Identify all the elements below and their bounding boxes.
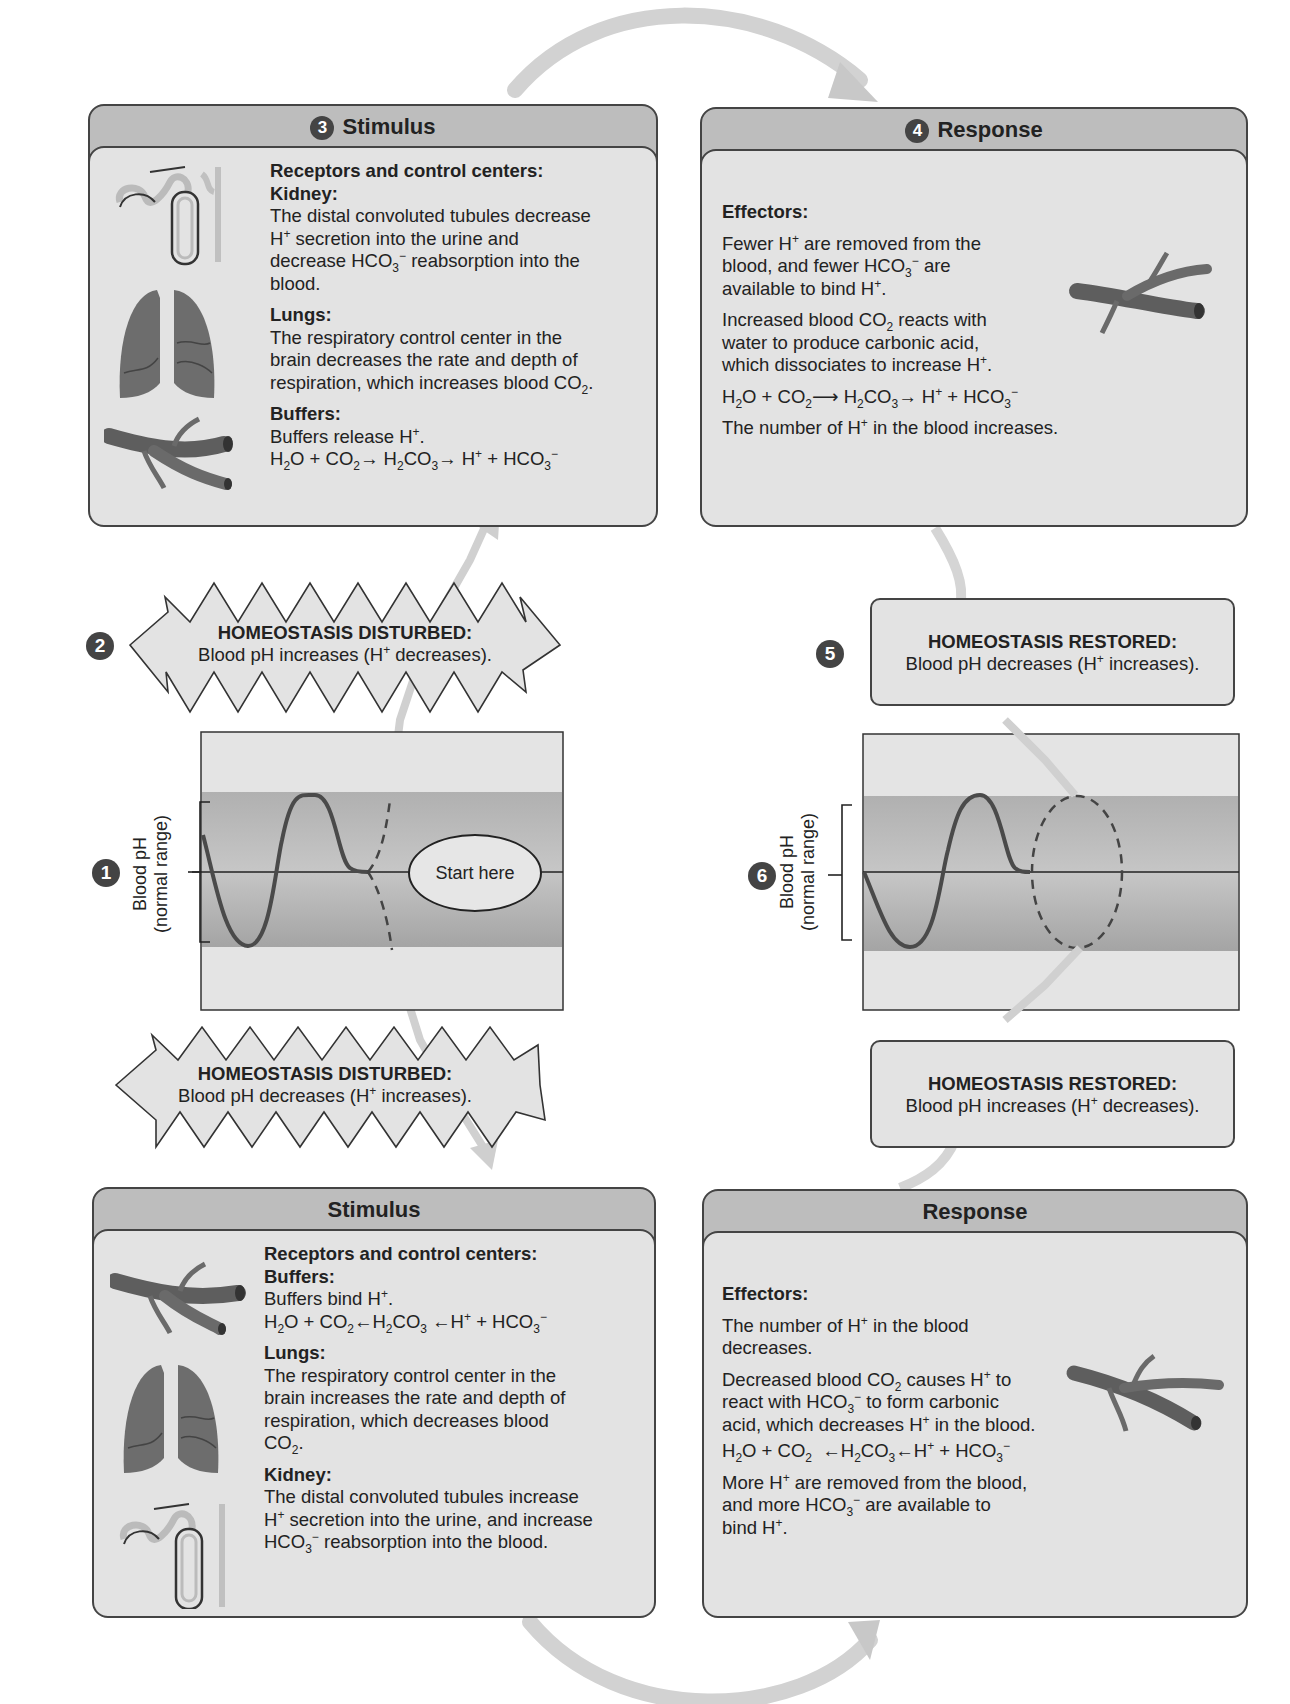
restored-increase-box: HOMEOSTASIS RESTORED: Blood pH increases… bbox=[870, 1040, 1235, 1148]
top-curved-arrow bbox=[515, 16, 878, 102]
start-here-oval: Start here bbox=[408, 834, 542, 912]
stimulus-top-text: Receptors and control centers: Kidney: T… bbox=[270, 160, 650, 480]
response-equation: H2O + CO2⟶ H2CO3→ H+ + HCO3− bbox=[722, 386, 1018, 407]
restored-decrease-box: HOMEOSTASIS RESTORED: Blood pH decreases… bbox=[870, 598, 1235, 706]
stimulus-panel-bottom: Stimulus Receptors and control centers: … bbox=[92, 1187, 656, 1618]
stimulus-bottom-text: Receptors and control centers: Buffers: … bbox=[264, 1243, 644, 1563]
response-panel-bottom-body: Effectors: The number of H+ in the blood… bbox=[702, 1231, 1248, 1618]
buffers-heading: Buffers: bbox=[270, 403, 650, 426]
step-3-badge: 3 bbox=[310, 116, 334, 140]
blood-vessel-icon bbox=[110, 1261, 260, 1341]
lungs-icon bbox=[116, 1363, 226, 1483]
arrow-response-to-restored bbox=[935, 528, 961, 605]
blood-vessel-icon bbox=[1067, 251, 1217, 341]
graph-right bbox=[828, 720, 1239, 1020]
stimulus-panel-top-title: 3 Stimulus bbox=[90, 106, 656, 146]
step-1-badge: 1 bbox=[92, 859, 120, 887]
graph-right-ylabel: Blood pH (normal range) bbox=[777, 802, 821, 942]
disturbed-decrease-text: HOMEOSTASIS DISTURBED: Blood pH decrease… bbox=[150, 1063, 500, 1107]
response-panel-bottom: Response Effectors: The number of H+ in … bbox=[702, 1189, 1248, 1618]
stimulus-panel-bottom-title: Stimulus bbox=[94, 1189, 654, 1229]
stimulus-panel-top: 3 Stimulus Receptors and control centers… bbox=[88, 104, 658, 527]
receptors-heading: Receptors and control centers: bbox=[270, 160, 650, 183]
step-2-badge: 2 bbox=[86, 632, 114, 660]
effectors-heading: Effectors: bbox=[722, 201, 1082, 224]
step-4-badge: 4 bbox=[905, 119, 929, 143]
response-panel-top-title: 4 Response bbox=[702, 109, 1246, 149]
bottom-curved-arrow bbox=[530, 1620, 880, 1702]
lungs-icon bbox=[112, 288, 222, 408]
response-panel-top-body: Effectors: Fewer H+ are removed from the… bbox=[700, 149, 1248, 527]
blood-vessel-icon bbox=[104, 416, 254, 496]
kidney-nephron-icon bbox=[110, 162, 230, 272]
stimulus-panel-bottom-body: Receptors and control centers: Buffers: … bbox=[92, 1229, 656, 1618]
response-equation-reverse: H2O + CO2 ←H2CO3←H+ + HCO3− bbox=[722, 1440, 1010, 1461]
disturbed-increase-text: HOMEOSTASIS DISTURBED: Blood pH increase… bbox=[170, 622, 520, 666]
response-panel-bottom-title: Response bbox=[704, 1191, 1246, 1231]
response-top-text: Effectors: Fewer H+ are removed from the… bbox=[722, 201, 1082, 449]
kidney-nephron-icon bbox=[114, 1499, 234, 1609]
buffer-equation-reverse: H2O + CO2←H2CO3 ←H+ + HCO3− bbox=[264, 1311, 547, 1332]
kidney-heading: Kidney: bbox=[270, 183, 650, 206]
buffer-equation: H2O + CO2→ H2CO3→ H+ + HCO3− bbox=[270, 448, 558, 469]
stimulus-panel-top-body: Receptors and control centers: Kidney: T… bbox=[88, 146, 658, 527]
graph-left-ylabel: Blood pH (normal range) bbox=[130, 804, 174, 944]
response-panel-top: 4 Response Effectors: Fewer H+ are remov… bbox=[700, 107, 1248, 527]
lungs-heading: Lungs: bbox=[270, 304, 650, 327]
step-6-badge: 6 bbox=[748, 862, 776, 890]
step-5-badge: 5 bbox=[816, 640, 844, 668]
response-bottom-text: Effectors: The number of H+ in the blood… bbox=[722, 1283, 1092, 1548]
